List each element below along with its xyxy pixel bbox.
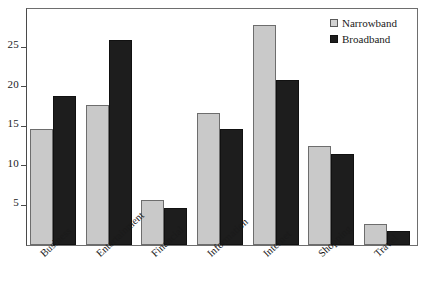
x-axis-labels: BusinessEntertainmentFinancialInformatio… xyxy=(0,247,423,307)
bar-broadband xyxy=(109,40,132,245)
bar-narrowband xyxy=(30,129,53,245)
bar-group xyxy=(141,9,187,245)
y-tick-mark xyxy=(21,205,26,206)
y-tick-label: 5 xyxy=(13,197,19,208)
y-tick-label: 15 xyxy=(8,118,19,129)
bar-group xyxy=(197,9,243,245)
bar-group xyxy=(86,9,132,245)
legend-label: Broadband xyxy=(342,32,390,46)
bar-broadband xyxy=(276,80,299,245)
y-tick-label: 10 xyxy=(8,158,19,169)
legend-swatch-narrow-icon xyxy=(330,19,338,27)
bar-group xyxy=(30,9,76,245)
legend-label: Narrowband xyxy=(342,16,397,30)
y-tick-mark xyxy=(21,126,26,127)
y-axis: 510152025 xyxy=(0,0,26,254)
bar-group xyxy=(253,9,299,245)
bar-broadband xyxy=(53,96,76,245)
y-tick-mark xyxy=(21,47,26,48)
legend-item: Broadband xyxy=(330,32,397,46)
y-tick-label: 20 xyxy=(8,79,19,90)
bar-chart: 510152025 BusinessEntertainmentFinancial… xyxy=(0,0,423,307)
legend-item: Narrowband xyxy=(330,16,397,30)
chart-legend: NarrowbandBroadband xyxy=(330,16,397,48)
y-tick-mark xyxy=(21,165,26,166)
legend-swatch-broad-icon xyxy=(330,35,338,43)
y-tick-mark xyxy=(21,86,26,87)
bar-narrowband xyxy=(253,25,276,245)
y-tick-label: 25 xyxy=(8,39,19,50)
bar-narrowband xyxy=(197,113,220,245)
bar-narrowband xyxy=(308,146,331,245)
bar-narrowband xyxy=(86,105,109,245)
